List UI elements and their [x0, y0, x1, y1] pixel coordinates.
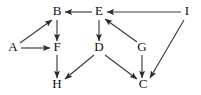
graph-node-b: B: [53, 3, 62, 18]
graph-edge-d-to-c: [105, 55, 137, 79]
graph-node-i: I: [185, 3, 189, 18]
graph-edge-i-to-c: [150, 20, 184, 78]
graph-node-g: G: [137, 39, 146, 54]
graph-node-a: A: [8, 39, 18, 54]
graph-edge-a-to-b: [20, 20, 52, 43]
graph-canvas: BEIAFDGHC: [0, 0, 201, 95]
graph-node-c: C: [139, 76, 148, 91]
graph-edge-g-to-e: [105, 19, 137, 42]
graph-node-f: F: [53, 39, 60, 54]
graph-edge-d-to-h: [65, 55, 94, 79]
graph-node-d: D: [94, 39, 103, 54]
graph-node-h: H: [52, 76, 61, 91]
graph-node-e: E: [95, 3, 103, 18]
graph-svg: BEIAFDGHC: [0, 0, 201, 95]
